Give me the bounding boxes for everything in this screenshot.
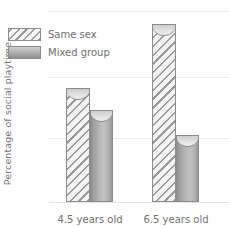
legend: Same sex Mixed group [8,26,110,62]
bar-4_5-same-sex [66,88,90,202]
bar-cap [66,88,90,100]
legend-swatch-mixed-group-icon [8,46,41,59]
legend-item-mixed-group: Mixed group [8,44,110,60]
bar-chart: Percentage of social playtime 75 50 25 0… [0,0,229,227]
gridline-50 [49,77,229,78]
bar-6_5-mixed-group [176,135,199,202]
legend-swatch-same-sex-icon [8,28,41,41]
legend-label-mixed-group: Mixed group [48,47,110,58]
gridline-0-baseline [49,202,229,203]
gridline-75 [49,11,229,12]
bar-6_5-same-sex [152,24,176,202]
x-tick-label-6-5-years-old: 6.5 years old [143,214,208,225]
bar-cap [90,110,113,122]
legend-label-same-sex: Same sex [48,29,97,40]
legend-item-same-sex: Same sex [8,26,110,42]
x-tick-label-4-5-years-old: 4.5 years old [57,214,122,225]
bar-cap [152,24,176,36]
bar-cap [176,135,199,147]
bar-4_5-mixed-group [90,110,113,202]
